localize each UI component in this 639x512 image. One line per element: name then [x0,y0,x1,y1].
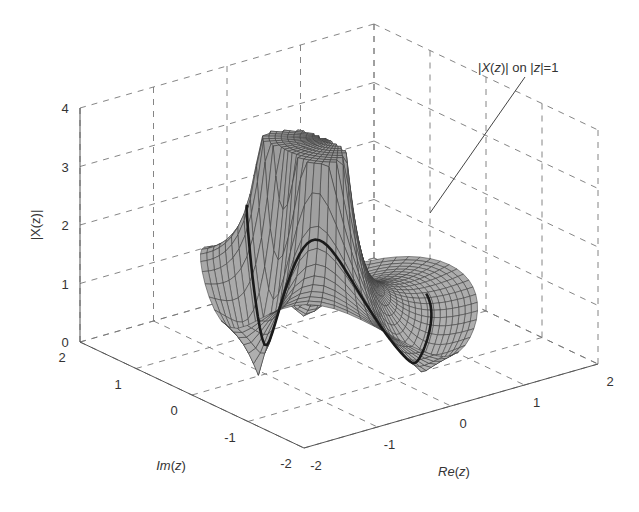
surface-patch [201,261,209,272]
z-tick-label: 1 [61,277,68,292]
annotation-leader-line [430,77,525,213]
surface-patch [330,160,337,162]
surface-patch [263,134,270,137]
surface-patch [338,146,341,148]
z-tick-label: 2 [61,218,68,233]
surface-patch [281,134,288,136]
surface-patch [337,153,342,155]
surface-patch [433,318,440,326]
y-axis-label: Im(z) [156,458,186,473]
surface-patch [314,264,325,277]
surface-patch [459,306,465,316]
z-axis-label: |X(z)| [28,210,43,241]
surface-plot: 01234210-1-2-2-1012 |X(z)| Im(z) Re(z) |… [0,0,639,512]
surface-patch [434,310,440,318]
surface-patch [311,285,323,293]
unit-circle-annotation: |X(z)| on |z|=1 [478,60,558,75]
x-tick-label: 2 [606,374,613,389]
y-tick-label: 2 [58,350,65,365]
x-tick-label: -1 [384,437,396,452]
surface-patch [439,317,446,326]
z-tick-label: 0 [61,335,68,350]
surface-patch [307,301,321,306]
surface-patch [440,309,446,317]
y-tick-label: -1 [224,430,236,445]
x-tick-label: -2 [310,458,322,473]
x-tick-label: 1 [533,395,540,410]
surface-patch [313,276,325,286]
surface-patch [453,307,459,316]
surface-patch [269,134,276,137]
surface-patch [446,308,452,317]
surface-mesh [201,130,478,375]
x-axis-label: Re(z) [438,464,470,479]
y-tick-label: 1 [114,377,121,392]
z-tick-label: 4 [61,101,68,116]
z-tick-label: 3 [61,160,68,175]
surface-patch [201,253,207,262]
y-tick-label: 0 [170,403,177,418]
x-tick-label: 0 [459,416,466,431]
y-tick-label: -2 [280,456,292,471]
surface-patch [337,151,341,153]
